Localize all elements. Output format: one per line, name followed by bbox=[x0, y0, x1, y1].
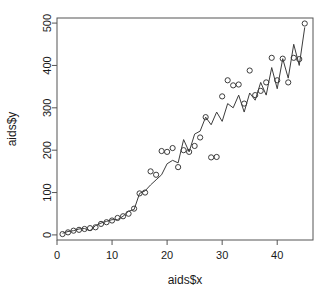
data-point bbox=[264, 80, 269, 85]
x-tick-label: 10 bbox=[106, 249, 118, 261]
data-point bbox=[148, 169, 153, 174]
data-point bbox=[236, 82, 241, 87]
data-point bbox=[181, 148, 186, 153]
data-point bbox=[87, 226, 92, 231]
y-tick-label: 400 bbox=[41, 56, 53, 74]
y-tick-label: 100 bbox=[41, 183, 53, 201]
data-point bbox=[286, 80, 291, 85]
y-axis-title: aids$y bbox=[5, 112, 19, 147]
data-point bbox=[154, 172, 159, 177]
data-point bbox=[209, 155, 214, 160]
data-point bbox=[220, 94, 225, 99]
y-tick-label: 200 bbox=[41, 141, 53, 159]
data-point bbox=[225, 78, 230, 83]
data-point bbox=[192, 143, 197, 148]
data-point bbox=[269, 55, 274, 60]
data-point bbox=[258, 88, 263, 93]
x-axis-ticks bbox=[57, 240, 277, 245]
y-tick-label: 300 bbox=[41, 99, 53, 117]
data-point bbox=[165, 149, 170, 154]
data-point bbox=[60, 231, 65, 236]
data-point bbox=[198, 135, 203, 140]
x-axis-title: aids$x bbox=[168, 273, 203, 287]
plot-canvas: 010203040 0100200300400500 aids$x aids$y bbox=[0, 0, 326, 298]
data-point bbox=[170, 145, 175, 150]
data-point bbox=[231, 83, 236, 88]
x-tick-label: 0 bbox=[54, 249, 60, 261]
y-tick-label: 0 bbox=[41, 232, 53, 238]
y-axis-tick-labels: 0100200300400500 bbox=[41, 14, 53, 238]
x-axis-tick-labels: 010203040 bbox=[54, 249, 283, 261]
data-point bbox=[214, 154, 219, 159]
data-point bbox=[126, 211, 131, 216]
data-point bbox=[302, 21, 307, 26]
data-point bbox=[159, 148, 164, 153]
data-point bbox=[176, 165, 181, 170]
x-tick-label: 20 bbox=[161, 249, 173, 261]
data-point bbox=[242, 101, 247, 106]
x-tick-label: 30 bbox=[216, 249, 228, 261]
fitted-line-series bbox=[63, 27, 305, 233]
fitted-line bbox=[63, 27, 305, 233]
x-tick-label: 40 bbox=[271, 249, 283, 261]
y-tick-label: 500 bbox=[41, 14, 53, 32]
observed-points-series bbox=[60, 21, 307, 237]
plot-box bbox=[57, 18, 313, 240]
scatter-plot: 010203040 0100200300400500 aids$x aids$y bbox=[0, 0, 326, 298]
data-point bbox=[247, 68, 252, 73]
y-axis-ticks bbox=[52, 23, 57, 235]
